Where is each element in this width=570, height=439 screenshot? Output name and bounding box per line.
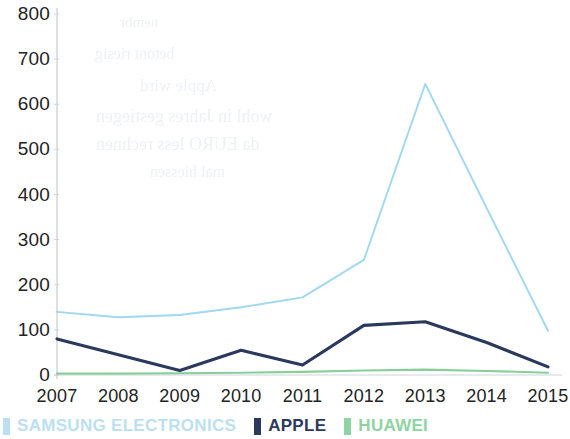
legend-item-apple[interactable]: APPLE xyxy=(254,417,326,435)
legend-item-huawei[interactable]: HUAWEI xyxy=(344,417,428,435)
series-line-samsung xyxy=(57,84,548,331)
legend-swatch-apple xyxy=(254,418,261,435)
line-chart: 0100200300400500600700800 20072008200920… xyxy=(0,0,570,439)
series-line-huawei xyxy=(57,370,548,374)
legend-swatch-samsung xyxy=(3,418,10,435)
legend-swatch-huawei xyxy=(344,418,351,435)
axis-lines xyxy=(54,8,562,379)
legend-item-samsung[interactable]: SAMSUNG ELECTRONICS xyxy=(3,417,236,435)
legend-label-huawei: HUAWEI xyxy=(358,417,428,435)
series-lines xyxy=(57,84,548,374)
series-line-apple xyxy=(57,322,548,371)
chart-plot xyxy=(0,0,570,439)
legend-label-samsung: SAMSUNG ELECTRONICS xyxy=(17,417,236,435)
legend-label-apple: APPLE xyxy=(268,417,326,435)
chart-legend: SAMSUNG ELECTRONICS APPLE HUAWEI xyxy=(3,415,446,437)
